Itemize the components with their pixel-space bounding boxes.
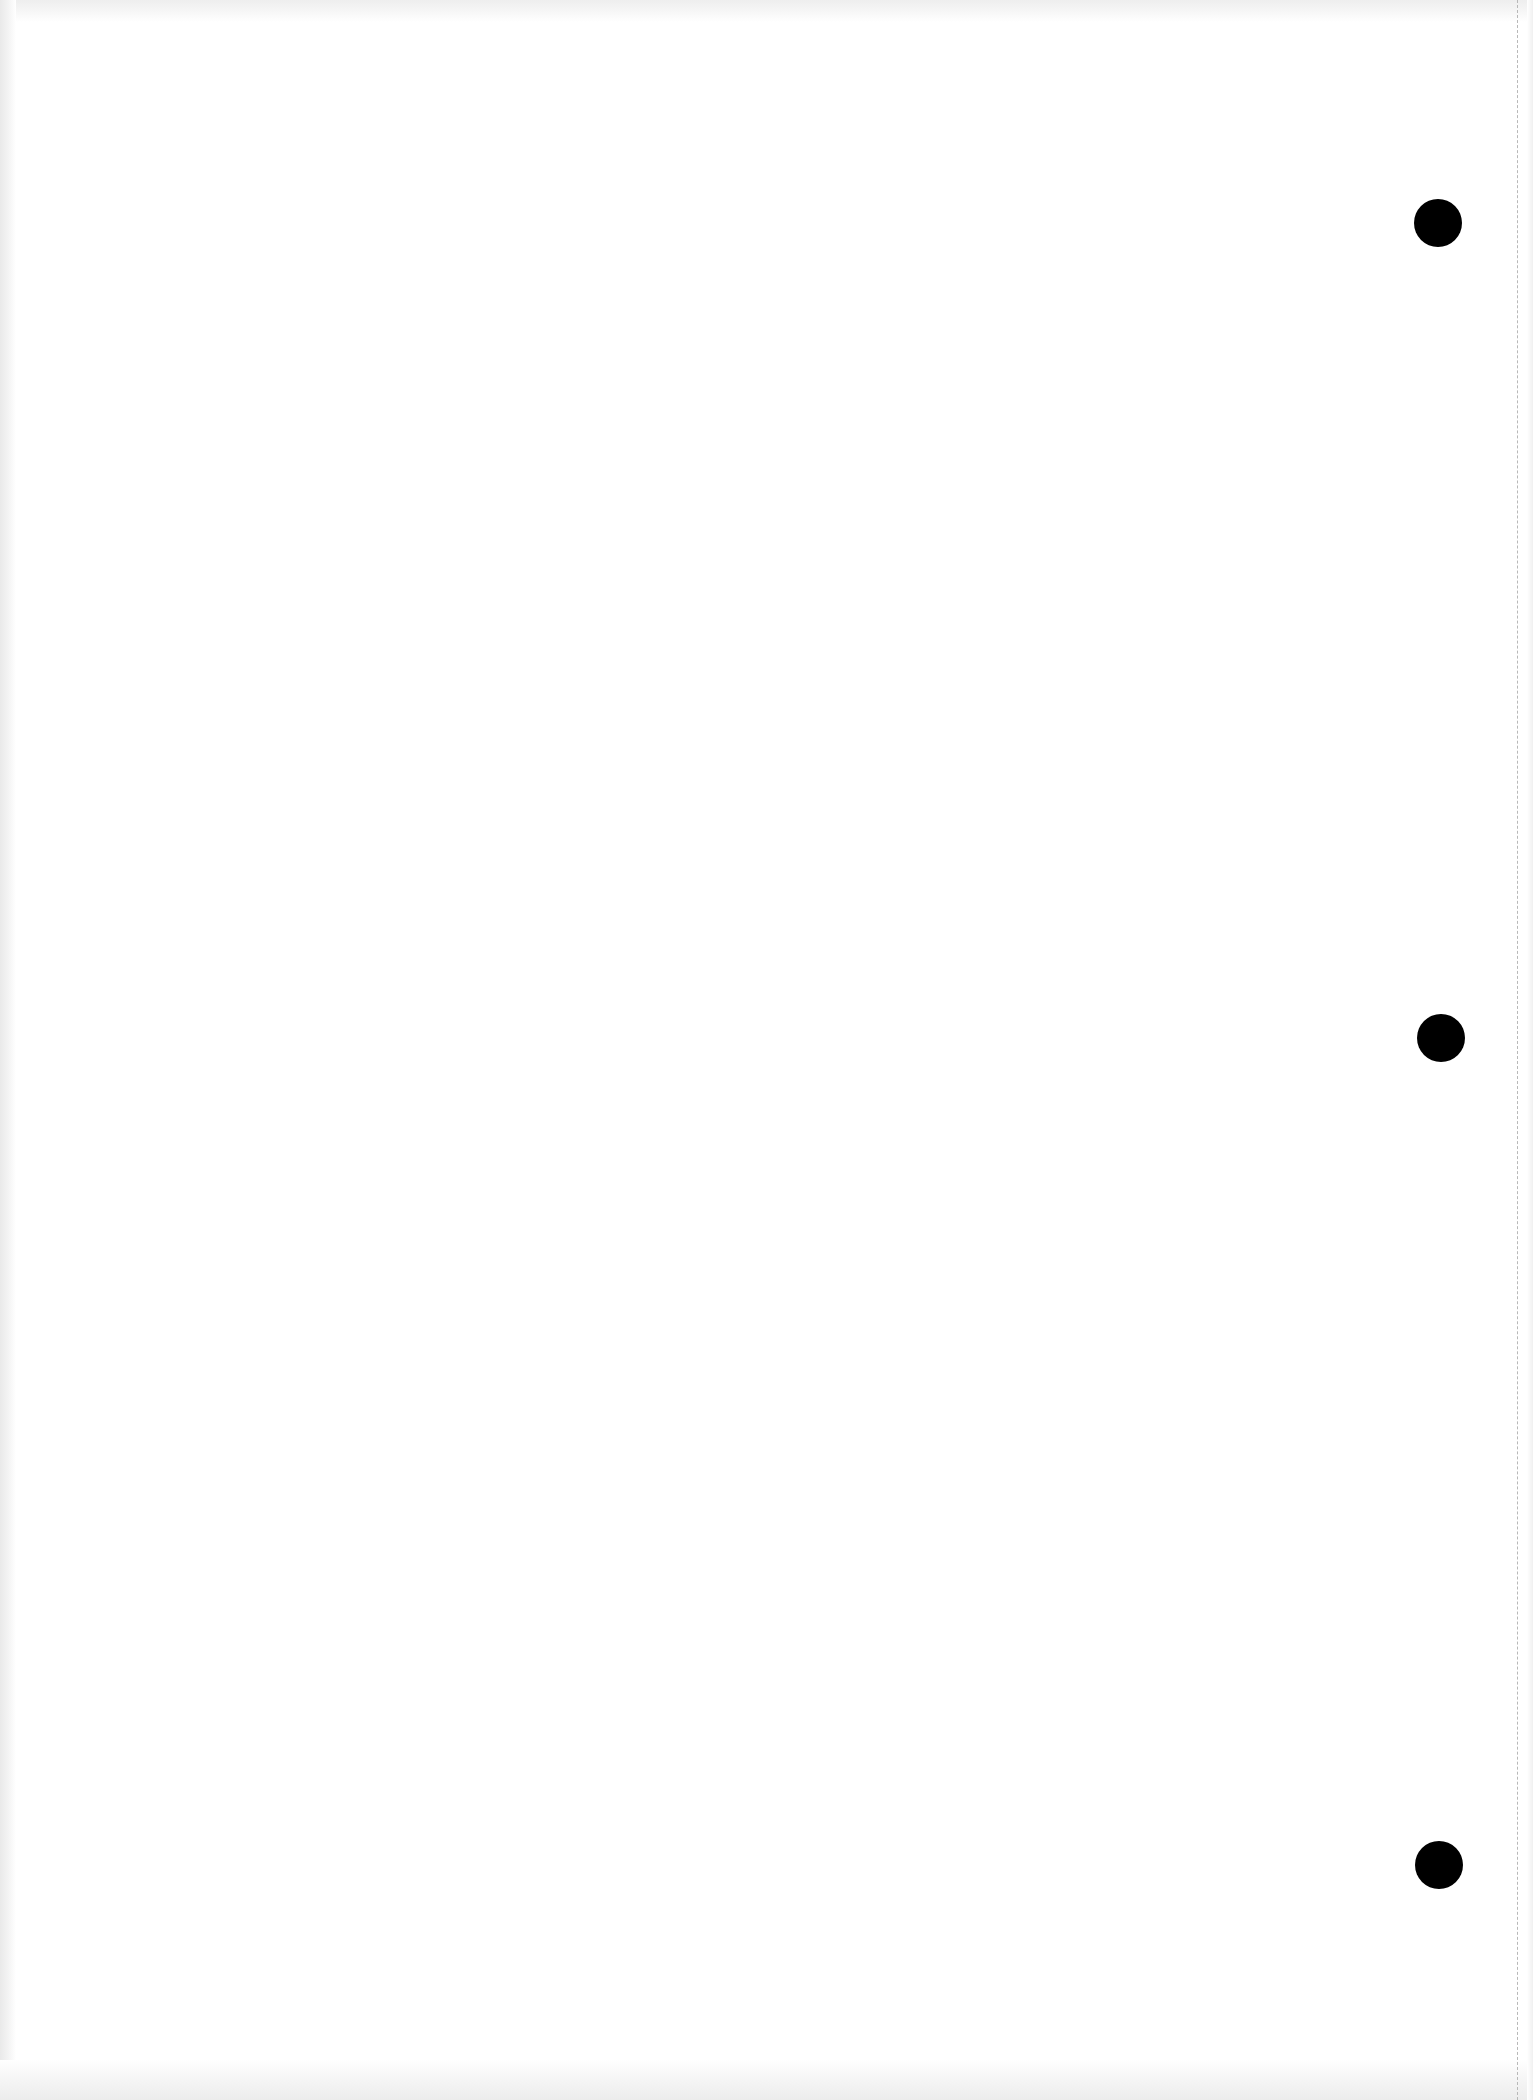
left-edge-shading (0, 0, 16, 2100)
punch-hole-bottom-icon (1415, 1841, 1463, 1889)
blank-scanned-page (0, 0, 1533, 2100)
bottom-edge-shading (0, 2060, 1533, 2100)
punch-hole-top-icon (1414, 199, 1462, 247)
perforation-line (1517, 0, 1518, 2100)
punch-hole-middle-icon (1417, 1014, 1465, 1062)
right-edge-shading (1527, 0, 1533, 2100)
top-edge-shading (0, 0, 1533, 22)
